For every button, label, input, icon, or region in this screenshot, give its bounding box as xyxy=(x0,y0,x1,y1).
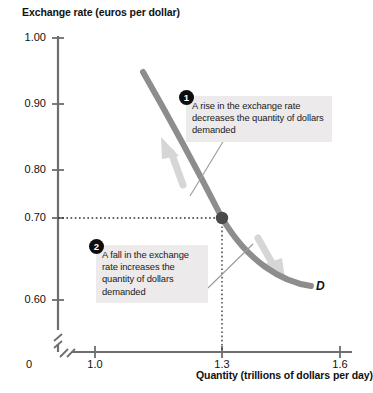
annotation-callout-1: A rise in the exchange rate decreases th… xyxy=(186,96,332,142)
y-tick-label-0.70: 0.70 xyxy=(12,211,46,223)
demand-curve-label: D xyxy=(316,279,325,293)
y-tick-label-0.80: 0.80 xyxy=(12,163,46,175)
annotation-badge-2: 2 xyxy=(89,239,104,254)
x-axis-title: Quantity (trillions of dollars per day) xyxy=(196,369,373,381)
demand-curve-figure: Exchange rate (euros per dollar) Quantit… xyxy=(0,0,373,393)
x-tick-label-0: 0 xyxy=(9,358,49,370)
y-axis-title: Exchange rate (euros per dollar) xyxy=(22,6,180,18)
y-tick-label-0.90: 0.90 xyxy=(12,97,46,109)
equilibrium-point xyxy=(216,212,228,224)
y-tick-label-1.00: 1.00 xyxy=(12,31,46,43)
x-tick-label-1.3: 1.3 xyxy=(202,358,242,370)
annotation-callout-2: A fall in the exchange rate increases th… xyxy=(96,245,208,303)
plot-area xyxy=(0,0,373,393)
x-tick-label-1.6: 1.6 xyxy=(320,358,360,370)
annotation-badge-1: 1 xyxy=(179,90,194,105)
x-tick-label-1.0: 1.0 xyxy=(75,358,115,370)
movement-arrow-up-icon xyxy=(161,137,183,185)
leader-line-2 xyxy=(208,244,253,288)
y-tick-label-0.60: 0.60 xyxy=(12,293,46,305)
